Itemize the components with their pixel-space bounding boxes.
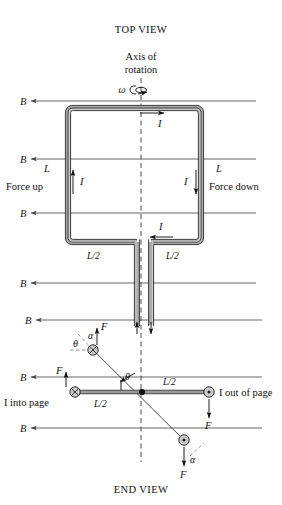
- axis-of-rotation-label-line2: rotation: [125, 64, 158, 75]
- current-label-left: I: [79, 176, 84, 187]
- out-of-page-caption: I out of page: [219, 387, 273, 398]
- b-label-6: B: [20, 372, 27, 383]
- force-label-tilted-upper: F: [100, 321, 108, 332]
- conductor-out-of-page-horizontal: [204, 387, 214, 397]
- conductor-into-page-tilted: [88, 345, 98, 355]
- force-label-tilted-lower: F: [179, 469, 187, 480]
- physics-diagram: TOP VIEW END VIEW Axis of rotation ω B B…: [0, 0, 282, 505]
- force-down-label: Force down: [209, 181, 260, 192]
- axis-of-rotation-label-line1: Axis of: [125, 51, 157, 62]
- figure-canvas: TOP VIEW END VIEW Axis of rotation ω B B…: [0, 0, 282, 505]
- half-length-label-right-end: L/2: [162, 377, 176, 387]
- current-label-top: I: [157, 118, 162, 129]
- force-label-right: F: [204, 420, 212, 431]
- b-label-1: B: [20, 96, 27, 107]
- theta-angle-pivot: θ: [120, 371, 135, 390]
- theta-label-pivot: θ: [125, 371, 130, 382]
- length-label-left: L: [43, 163, 50, 174]
- b-label-2: B: [20, 154, 27, 165]
- force-labels: F F F F: [55, 321, 212, 480]
- force-label-left: F: [55, 365, 63, 376]
- b-label-4: B: [20, 278, 27, 289]
- conductor-into-page-horizontal: [70, 387, 80, 397]
- into-page-caption: I into page: [4, 397, 49, 408]
- alpha-label-lower: α: [190, 454, 196, 465]
- half-length-label-left-top: L/2: [86, 251, 100, 261]
- force-arrows: [66, 328, 209, 466]
- b-label-3: B: [20, 208, 27, 219]
- pivot-point: [139, 389, 145, 395]
- conductor-out-of-page-tilted: [179, 435, 189, 445]
- rotation-curl-icon: [130, 86, 147, 94]
- b-label-7: B: [20, 423, 27, 434]
- omega-label: ω: [118, 84, 125, 95]
- current-label-bottom: I: [158, 221, 163, 232]
- theta-angle-upper: θ: [70, 338, 88, 350]
- b-field-labels: B B B B B B B: [20, 96, 32, 434]
- current-labels: I I I I: [79, 118, 188, 232]
- end-view-title: END VIEW: [114, 484, 169, 495]
- top-view-title: TOP VIEW: [115, 24, 167, 35]
- loop-current-arrows: [73, 113, 196, 237]
- length-label-right: L: [215, 163, 222, 174]
- theta-label-upper: θ: [73, 338, 78, 349]
- tilted-loop-cross-section: [93, 350, 184, 440]
- alpha-label-upper: α: [88, 330, 94, 341]
- alpha-angle-lower: α: [190, 443, 204, 465]
- current-loop: [65, 105, 203, 244]
- half-length-label-right-top: L/2: [165, 251, 179, 261]
- current-label-right: I: [183, 176, 188, 187]
- force-up-label: Force up: [6, 181, 43, 192]
- half-length-label-left-end: L/2: [93, 399, 107, 409]
- b-label-5: B: [25, 315, 32, 326]
